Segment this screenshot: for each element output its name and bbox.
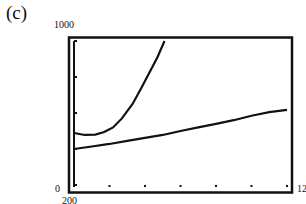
series-line [74,110,287,149]
x-ticks [109,185,289,187]
plot-area [0,0,306,204]
series-lines [74,41,287,149]
series-line [74,41,165,135]
